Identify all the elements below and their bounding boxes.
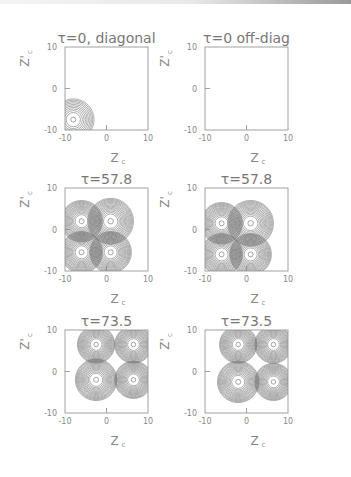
contour-ring — [230, 374, 246, 390]
x-tick-label: -10 — [58, 417, 71, 426]
contour-ring — [84, 332, 109, 357]
panel-title: τ=0, diagonal — [57, 30, 155, 46]
y-tick-label: 10 — [187, 326, 197, 335]
y-tick-label: 10 — [47, 184, 57, 193]
x-tick-label: 10 — [143, 417, 153, 426]
contour-ring — [124, 370, 143, 389]
y-tick-label: 0 — [192, 226, 197, 235]
contour-peak — [79, 219, 84, 224]
contour-ring — [116, 363, 150, 397]
panel-title: τ=57.8 — [81, 171, 132, 187]
x-axis-label: Z — [250, 434, 258, 448]
contour-group — [217, 326, 292, 403]
y-axis-label-subscript: c — [166, 333, 174, 337]
panel-2: -10010-10010τ=0 off-diagZcZ'c — [158, 30, 293, 166]
contour-ring — [256, 365, 290, 399]
x-axis-label: Z — [110, 151, 118, 165]
contour-ring — [224, 368, 252, 396]
contour-ring — [90, 373, 103, 386]
contour-ring — [64, 111, 82, 129]
contour-ring — [215, 248, 228, 261]
y-tick-label: 10 — [187, 184, 197, 193]
contour-ring — [103, 214, 117, 228]
contour-ring — [238, 242, 264, 268]
contour-ring — [128, 339, 140, 351]
contour-peak — [248, 252, 253, 257]
contour-ring — [121, 367, 146, 392]
contour-ring — [221, 328, 255, 362]
contour-ring — [215, 217, 228, 230]
contour-ring — [104, 246, 117, 259]
contour-ring — [128, 374, 140, 386]
contour-ring — [242, 215, 260, 233]
x-axis-label-subscript: c — [262, 441, 266, 449]
contour-ring — [79, 328, 113, 362]
y-axis-label-text: Z' — [18, 338, 32, 350]
contour-ring — [122, 368, 145, 391]
contour-ring — [124, 335, 143, 354]
contour-ring — [90, 339, 102, 351]
contour-ring — [95, 206, 126, 237]
contour-ring — [102, 212, 120, 230]
y-axis-label-subscript: c — [26, 333, 34, 337]
contour-peak — [79, 250, 84, 255]
contour-ring — [261, 332, 286, 357]
y-axis-label-text: Z' — [18, 196, 32, 208]
contour-ring — [119, 330, 148, 359]
contour-ring — [259, 368, 288, 397]
contour-ring — [264, 335, 283, 354]
contour-ring — [82, 366, 110, 394]
y-axis-label-text: Z' — [18, 55, 32, 67]
y-tick-label: 0 — [192, 368, 197, 377]
contour-ring — [97, 207, 125, 235]
x-tick-label: 10 — [283, 134, 293, 143]
contour-ring — [268, 339, 280, 351]
contour-group — [201, 200, 274, 275]
y-tick-label: 0 — [52, 368, 57, 377]
contour-ring — [214, 215, 230, 231]
contour-peak — [131, 378, 135, 382]
contour-peak — [271, 342, 275, 346]
contour-ring — [115, 361, 152, 398]
y-axis-label-subscript: c — [166, 191, 174, 195]
contour-ring — [71, 242, 92, 263]
contour-ring — [229, 335, 248, 354]
contour-peak — [236, 379, 241, 384]
contour-ring — [88, 372, 104, 388]
panel-3: -10010-10010τ=57.8ZcZ'c — [18, 171, 153, 307]
x-tick-label: -10 — [58, 134, 71, 143]
x-axis-label: Z — [110, 292, 118, 306]
panel-6: -10010-10010τ=73.5ZcZ'c — [158, 313, 293, 449]
contour-ring — [63, 109, 84, 130]
contour-ring — [74, 244, 90, 260]
x-tick-label: 0 — [104, 134, 109, 143]
contour-ring — [83, 367, 109, 393]
contour-ring — [243, 216, 257, 230]
x-tick-label: 10 — [143, 275, 153, 284]
contour-ring — [126, 373, 140, 387]
x-tick-label: 10 — [143, 134, 153, 143]
y-tick-label: -10 — [184, 126, 197, 135]
contour-ring — [243, 246, 259, 262]
contour-ring — [75, 215, 88, 228]
contour-ring — [55, 102, 91, 138]
x-axis-label: Z — [250, 292, 258, 306]
contour-peak — [219, 252, 224, 257]
contour-ring — [244, 248, 257, 261]
plot-frame — [205, 47, 288, 130]
contour-peak — [248, 221, 253, 226]
y-tick-label: -10 — [44, 409, 57, 418]
contour-ring — [85, 333, 108, 356]
contour-ring — [77, 326, 114, 363]
x-tick-label: -10 — [198, 417, 211, 426]
contour-ring — [266, 337, 280, 351]
plot-frame — [205, 188, 288, 271]
y-axis-label: Z'c — [158, 333, 174, 350]
contour-ring — [119, 365, 148, 394]
panel-title: τ=73.5 — [221, 313, 272, 329]
contour-ring — [262, 370, 285, 393]
y-tick-label: -10 — [44, 126, 57, 135]
y-axis-label-text: Z' — [158, 196, 172, 208]
contour-ring — [231, 337, 245, 351]
x-tick-label: 10 — [283, 275, 293, 284]
